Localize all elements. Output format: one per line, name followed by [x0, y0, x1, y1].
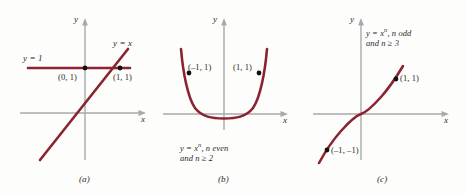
panel-b-caption: (b)	[218, 174, 229, 185]
panel-c-note-line1: y = xn, n odd	[366, 28, 411, 38]
panel-c-note-suffix: , n odd	[387, 28, 411, 38]
panel-a-caption: (a)	[79, 174, 90, 185]
panel-a-point-label-1-1: (1, 1)	[113, 72, 132, 82]
panel-a-x-axis-label: x	[141, 114, 145, 125]
panel-a-x-axis	[20, 110, 146, 116]
panel-b-plot	[155, 0, 305, 194]
panel-c-note-prefix: y = x	[366, 28, 384, 38]
panel-c-y-axis	[358, 18, 364, 160]
panel-c: y x y = xn, n odd and n ≥ 3 (1, 1) (–1, …	[305, 0, 466, 194]
panel-b-point-1-1	[257, 71, 262, 76]
figure-three-power-function-graphs: y x y = 1 y = x (0, 1) (1, 1) (a) y	[0, 0, 466, 194]
panel-b: y x (–1, 1) (1, 1) y = xn, n even and n …	[155, 0, 305, 194]
panel-a-y-axis-label: y	[74, 14, 78, 25]
panel-b-x-axis-label: x	[283, 115, 287, 126]
panel-c-x-axis-label: x	[444, 115, 448, 126]
panel-c-point-1-1	[394, 77, 399, 82]
panel-a-point-1-1	[118, 66, 123, 71]
panel-a-equation-horizontal-label: y = 1	[23, 53, 43, 64]
panel-a-plot	[0, 0, 155, 194]
panel-c-x-axis	[313, 111, 449, 117]
panel-a-equation-diagonal-label: y = x	[113, 38, 132, 49]
panel-b-x-axis	[163, 111, 288, 117]
panel-c-point-neg1-neg1	[325, 148, 330, 153]
panel-b-note-line1: y = xn, n even	[180, 143, 228, 153]
panel-a: y x y = 1 y = x (0, 1) (1, 1) (a)	[0, 0, 155, 194]
panel-c-point-label-1-1: (1, 1)	[400, 73, 419, 83]
panel-b-note-prefix: y = x	[180, 143, 198, 153]
panel-b-note-suffix: , n even	[201, 143, 228, 153]
panel-c-caption: (c)	[377, 174, 387, 185]
panel-a-point-0-1	[83, 66, 88, 71]
panel-b-point-label-1-1: (1, 1)	[233, 62, 252, 72]
panel-b-note: y = xn, n even and n ≥ 2	[180, 141, 228, 164]
panel-b-y-axis-label: y	[213, 14, 217, 25]
panel-c-point-label-neg1-neg1: (–1, –1)	[331, 145, 359, 155]
panel-a-point-label-0-1: (0, 1)	[58, 72, 77, 82]
panel-b-point-label-neg1-1: (–1, 1)	[188, 62, 211, 72]
panel-a-y-axis	[82, 18, 88, 160]
panel-c-note-line2: and n ≥ 3	[366, 38, 399, 48]
panel-c-note: y = xn, n odd and n ≥ 3	[366, 26, 411, 49]
panel-b-y-axis	[221, 18, 227, 130]
panel-b-note-line2: and n ≥ 2	[180, 153, 213, 163]
panel-a-curve-y-equals-x	[40, 49, 128, 160]
panel-c-y-axis-label: y	[350, 14, 354, 25]
